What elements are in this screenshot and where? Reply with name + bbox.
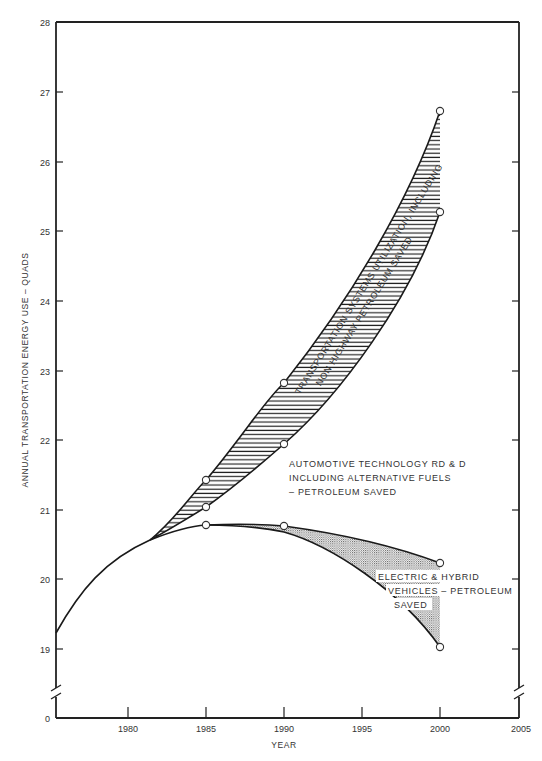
y-tick-28: 28 [40, 18, 50, 28]
x-tick-1995: 1995 [352, 724, 372, 734]
svg-text:INCLUDING ALTERNATIVE FUELS: INCLUDING ALTERNATIVE FUELS [289, 473, 451, 483]
annotation-electric-hybrid: ELECTRIC & HYBRID VEHICLES – PETROLEUM S… [376, 570, 513, 610]
y-tick-27: 27 [40, 88, 50, 98]
y-tick-24: 24 [40, 297, 50, 307]
svg-text:TRANSPORTATION SYSTEMS UTILIZA: TRANSPORTATION SYSTEMS UTILIZATION, INCL… [293, 162, 444, 396]
marker-systems-1990 [280, 440, 287, 447]
baseline-curve [56, 540, 150, 633]
y-tick-21: 21 [40, 506, 50, 516]
marker-auto-2000 [436, 559, 443, 566]
marker-auto-1985 [202, 521, 209, 528]
marker-auto-1990 [280, 522, 287, 529]
marker-systems-1985 [202, 503, 209, 510]
svg-text:AUTOMOTIVE TECHNOLOGY RD & D: AUTOMOTIVE TECHNOLOGY RD & D [289, 459, 466, 469]
y-axis-title: ANNUAL TRANSPORTATION ENERGY USE – QUADS [20, 253, 30, 488]
y-tick-0: 0 [45, 714, 50, 724]
svg-text:VEHICLES – PETROLEUM: VEHICLES – PETROLEUM [388, 586, 513, 596]
y-tick-19: 19 [40, 645, 50, 655]
x-tick-2000: 2000 [430, 724, 450, 734]
y-tick-22: 22 [40, 436, 50, 446]
y-ticks-right [512, 92, 519, 649]
y-tick-labels: 28 27 26 25 24 23 22 21 20 19 0 [40, 18, 50, 724]
x-tick-labels: 1980 1985 1990 1995 2000 2005 [118, 724, 531, 734]
y-tick-20: 20 [40, 575, 50, 585]
x-tick-1990: 1990 [274, 724, 294, 734]
y-tick-26: 26 [40, 158, 50, 168]
marker-upper-1985 [202, 476, 209, 483]
x-axis-title: YEAR [271, 740, 297, 750]
marker-electric-2000 [436, 643, 443, 650]
y-tick-25: 25 [40, 227, 50, 237]
x-tick-1980: 1980 [118, 724, 138, 734]
marker-systems-2000 [436, 208, 443, 215]
svg-text:NON HIGHWAY PETROLEUM SAVED: NON HIGHWAY PETROLEUM SAVED [314, 235, 415, 388]
x-ticks [128, 707, 440, 718]
svg-text:– PETROLEUM SAVED: – PETROLEUM SAVED [289, 487, 397, 497]
svg-text:SAVED: SAVED [394, 600, 427, 610]
svg-text:ELECTRIC & HYBRID: ELECTRIC & HYBRID [378, 572, 479, 582]
y-ticks-left [56, 92, 63, 649]
axis-break-marks [51, 685, 524, 699]
annotation-automotive-technology: AUTOMOTIVE TECHNOLOGY RD & D INCLUDING A… [289, 459, 466, 497]
x-tick-1985: 1985 [196, 724, 216, 734]
plot-frame [56, 22, 519, 718]
chart: 28 27 26 25 24 23 22 21 20 19 0 1980 198… [0, 0, 542, 761]
marker-upper-2000 [436, 107, 443, 114]
x-tick-2005: 2005 [511, 724, 531, 734]
y-tick-23: 23 [40, 367, 50, 377]
marker-upper-1990 [280, 379, 287, 386]
